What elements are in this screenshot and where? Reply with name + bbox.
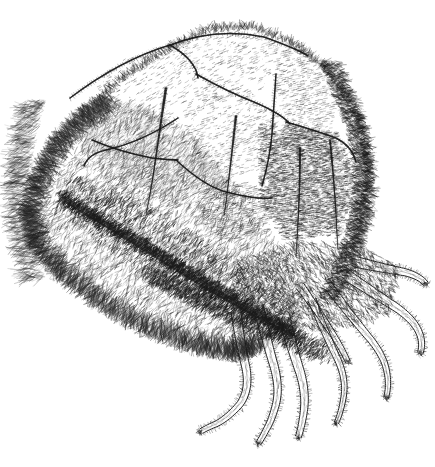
- illustration-canvas: [0, 0, 435, 467]
- paper-background: [0, 0, 435, 467]
- fur-cap-engraving: [0, 0, 435, 467]
